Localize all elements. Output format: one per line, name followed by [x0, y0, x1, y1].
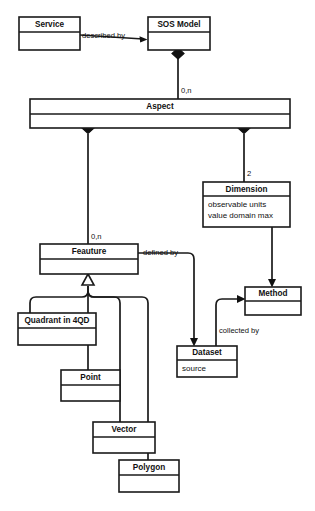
class-title-quadrant-in-4qd: Quadrant in 4QD	[24, 316, 89, 325]
class-box-vector[interactable]: Vector	[93, 422, 155, 453]
multiplicity-aspect-feauture: 0,n	[91, 232, 102, 241]
class-box-dimension[interactable]: Dimension observable units value domain …	[203, 182, 290, 227]
multiplicity-aspect-dimension: 2	[247, 169, 251, 178]
class-title-point: Point	[80, 373, 101, 382]
edge-line	[138, 253, 194, 341]
class-title-dimension: Dimension	[226, 185, 268, 194]
edge-label-described-by: described by	[82, 31, 125, 40]
generalization-branch-quadrant	[30, 286, 88, 313]
edge-line	[216, 299, 240, 346]
edge-label-collected-by: collected by	[219, 326, 259, 335]
uml-class-diagram-canvas: described by 0,n 2 0,n defined by collec…	[0, 0, 315, 511]
edge-dimension-to-method	[268, 227, 276, 288]
generalization-branch-vector	[88, 291, 120, 422]
class-title-method: Method	[258, 289, 287, 298]
class-title-service: Service	[35, 20, 65, 29]
class-attribute-observable-units: observable units	[208, 200, 266, 209]
class-box-aspect[interactable]: Aspect	[30, 99, 290, 128]
class-title-dataset: Dataset	[192, 348, 222, 357]
class-box-dataset[interactable]: Dataset source	[177, 346, 237, 377]
class-box-method[interactable]: Method	[245, 287, 301, 315]
class-title-aspect: Aspect	[146, 102, 174, 111]
class-title-sos-model: SOS Model	[157, 20, 200, 29]
class-box-service[interactable]: Service	[19, 17, 80, 50]
edge-label-defined-by: defined by	[143, 248, 178, 257]
class-box-quadrant-in-4qd[interactable]: Quadrant in 4QD	[18, 313, 96, 345]
multiplicity-sos-aspect: 0,n	[181, 86, 192, 95]
class-title-polygon: Polygon	[133, 463, 165, 472]
edge-aspect-composes-feauture	[82, 123, 94, 245]
class-box-point[interactable]: Point	[61, 370, 120, 401]
class-title-vector: Vector	[111, 425, 137, 434]
class-box-polygon[interactable]: Polygon	[119, 460, 179, 492]
class-box-sos-model[interactable]: SOS Model	[148, 17, 210, 50]
arrowhead-icon	[140, 36, 148, 42]
generalization-triangle-icon	[82, 274, 94, 285]
class-title-feauture: Feauture	[72, 247, 107, 256]
class-attribute-source: source	[182, 364, 207, 373]
class-box-feauture[interactable]: Feauture	[40, 244, 138, 274]
class-attribute-value-domain-max: value domain max	[208, 211, 273, 220]
edge-dataset-collected-by-method	[216, 295, 246, 346]
